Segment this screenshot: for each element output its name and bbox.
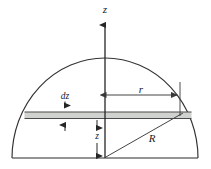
figure-canvas: z dz r z R — [0, 0, 211, 169]
dz-label: dz — [61, 91, 70, 101]
z-height-label: z — [94, 131, 99, 141]
r-label: r — [139, 83, 144, 95]
differential-slab-fill — [25, 112, 192, 119]
hemisphere-slab-figure: z dz r z R — [0, 0, 211, 169]
z-axis-label: z — [102, 3, 108, 15]
R-label: R — [148, 132, 156, 144]
